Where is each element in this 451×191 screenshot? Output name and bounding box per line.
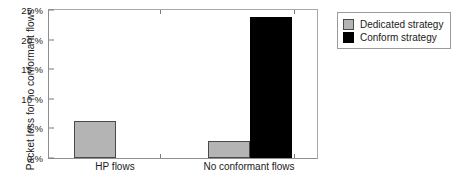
- y-axis-tick-label: 10 %: [21, 93, 49, 104]
- y-axis-tick-mark: [49, 69, 54, 70]
- legend-label-dedicated: Dedicated strategy: [360, 19, 443, 30]
- y-axis-tick-mark: [49, 39, 54, 40]
- bar-conform-strategy-no-conformant-flows: [250, 17, 292, 158]
- bar-dedicated-strategy-no-conformant-flows: [208, 141, 250, 158]
- y-axis-tick-label: 15 %: [21, 64, 49, 75]
- x-axis-tick-mark: [294, 154, 295, 158]
- y-axis-tick-mark: [49, 98, 54, 99]
- legend-item-conform[interactable]: Conform strategy: [343, 31, 443, 43]
- legend-item-dedicated[interactable]: Dedicated strategy: [343, 18, 443, 30]
- x-axis-tick-mark-top: [294, 10, 295, 14]
- y-axis-tick-mark: [49, 158, 54, 159]
- x-axis-tick-mark-top: [160, 10, 161, 14]
- legend-label-conform: Conform strategy: [360, 32, 437, 43]
- chart-legend: Dedicated strategy Conform strategy: [337, 12, 451, 49]
- x-axis-category-label: HP flows: [95, 161, 134, 172]
- legend-swatch-conform-icon: [343, 32, 354, 43]
- legend-swatch-dedicated-icon: [343, 19, 354, 30]
- y-axis-tick-label: 20 %: [21, 34, 49, 45]
- y-axis-tick-label: 25 %: [21, 5, 49, 16]
- x-axis-tick-mark: [160, 154, 161, 158]
- cropped-caption-strip: [0, 183, 451, 191]
- y-axis-tick-label: 5 %: [27, 123, 49, 134]
- bar-dedicated-strategy-hp-flows: [74, 121, 116, 158]
- y-axis-tick-label: 0 %: [27, 153, 49, 164]
- y-axis-tick-mark: [49, 128, 54, 129]
- y-axis-tick-mark: [49, 10, 54, 11]
- x-axis-category-label: No conformant flows: [203, 161, 294, 172]
- bar-chart-figure: Packet loss for no conformant flows 0 %5…: [0, 0, 451, 191]
- plot-area: 0 %5 %10 %15 %20 %25 %: [48, 9, 318, 159]
- cropped-caption-text: [6, 183, 9, 187]
